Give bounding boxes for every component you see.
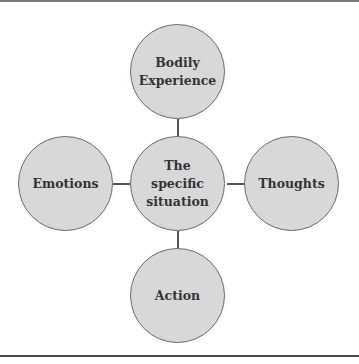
node-emotions: Emotions [18, 136, 113, 231]
node-label-line: Emotions [32, 175, 98, 193]
connector-bottom [177, 231, 179, 249]
node-specific-situation: The specific situation [130, 136, 225, 231]
top-rule [0, 0, 359, 2]
node-label-line: Experience [139, 72, 217, 90]
node-bodily-experience: Bodily Experience [130, 24, 225, 119]
node-label-line: The [146, 157, 209, 175]
connector-left [113, 183, 131, 185]
node-label-line: Action [155, 287, 200, 305]
connector-right [227, 183, 245, 185]
bottom-rule [0, 355, 359, 357]
node-label-line: specific [146, 175, 209, 193]
node-thoughts: Thoughts [244, 136, 339, 231]
node-label-line: Bodily [139, 54, 217, 72]
connector-top [177, 119, 179, 137]
node-label-line: situation [146, 193, 209, 211]
node-label-line: Thoughts [258, 175, 324, 193]
node-action: Action [130, 248, 225, 343]
